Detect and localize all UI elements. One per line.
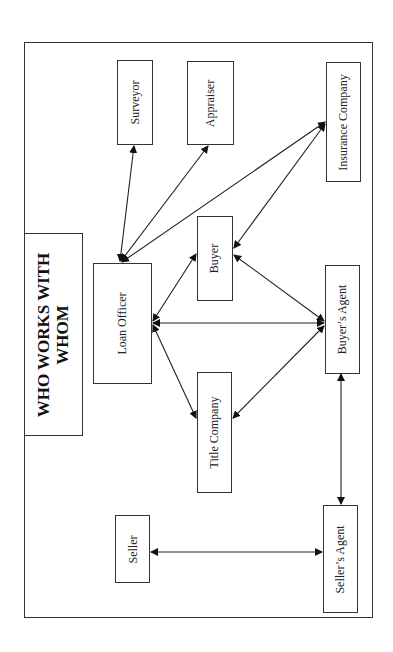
node-buyers-agent: Buyer’s Agent <box>325 265 360 374</box>
node-label: Seller <box>125 535 140 563</box>
diagram-title: WHO WORKS WITH WHOM <box>35 252 73 417</box>
diagram-canvas: WHO WORKS WITH WHOM Surveyor Appraiser I… <box>0 0 393 652</box>
node-sellers-agent: Seller’s Agent <box>323 505 358 613</box>
node-title-company: Title Company <box>197 372 232 493</box>
node-label: Insurance Company <box>336 74 351 170</box>
node-surveyor: Surveyor <box>117 60 153 145</box>
node-label: Buyer <box>207 244 222 273</box>
node-label: Buyer’s Agent <box>335 285 350 354</box>
node-loan-officer: Loan Officer <box>93 263 152 384</box>
node-label: Appraiser <box>203 79 218 126</box>
node-label: Loan Officer <box>115 292 130 354</box>
title-box: WHO WORKS WITH WHOM <box>24 233 83 436</box>
node-insurance-company: Insurance Company <box>326 62 361 182</box>
node-label: Surveyor <box>128 81 143 125</box>
node-appraiser: Appraiser <box>187 61 234 145</box>
node-buyer: Buyer <box>197 216 233 301</box>
node-seller: Seller <box>115 515 150 583</box>
node-label: Title Company <box>207 397 222 469</box>
node-label: Seller’s Agent <box>333 525 348 593</box>
